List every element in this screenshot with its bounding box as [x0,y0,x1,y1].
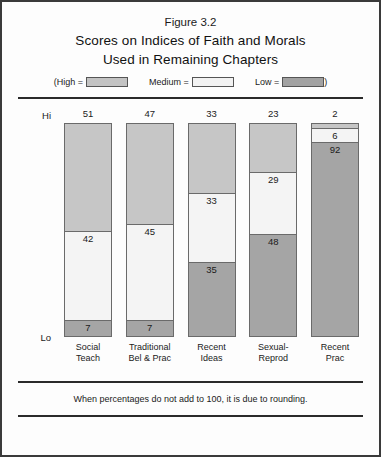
bar-segment-value-label: 7 [147,321,152,333]
low-swatch-icon [282,77,324,87]
category-label-line: Reprod [249,353,297,364]
title-block: Figure 3.2 Scores on Indices of Faith an… [2,2,379,68]
bar-segment-value-label: 45 [144,225,155,237]
bar-stack: 3335 [188,123,236,337]
bar-top-value-label: 47 [126,108,174,119]
category-label-line: Recent [188,342,236,353]
category-label-line: Traditional [126,342,174,353]
category-label-line: Social [64,342,112,353]
bar-stack: 457 [126,123,174,337]
legend-label-high: High = [57,77,83,87]
bar-segment-medium: 45 [127,224,173,320]
bar-segment-high [65,124,111,231]
figure-title-line-2: Used in Remaining Chapters [2,51,379,68]
bar-segment-high [127,124,173,224]
bar-column: 51427 [64,123,112,337]
medium-swatch-icon [192,77,234,87]
category-label: SocialTeach [64,342,112,363]
category-label-line: Prac [311,353,359,364]
category-label-group: SocialTeachTraditionalBel & PracRecentId… [64,342,359,363]
category-label-line: Sexual- [249,342,297,353]
plot-area: Hi Lo 51427474573333352329482692 SocialT… [18,99,363,381]
bar-segment-value-label: 7 [85,321,90,333]
legend-label-medium: Medium = [149,77,189,87]
bar-top-value-label: 2 [311,108,359,119]
bar-column: 2692 [311,123,359,337]
bar-top-value-label: 51 [64,108,112,119]
bar-segment-medium: 33 [189,193,235,263]
bar-segment-value-label: 35 [206,263,217,275]
bar-column: 333335 [188,123,236,337]
bar-segment-medium: 6 [312,128,358,142]
bar-segment-value-label: 33 [206,194,217,206]
category-label-line: Teach [64,353,112,364]
bar-column: 47457 [126,123,174,337]
legend-entry-medium: Medium = [149,77,234,87]
axis-label-low: Lo [29,332,51,343]
category-label: RecentPrac [311,342,359,363]
bar-segment-value-label: 92 [330,143,341,155]
figure-title-line-1: Scores on Indices of Faith and Morals [2,32,379,49]
bar-top-value-label: 33 [188,108,236,119]
legend-label-low: Low = [255,77,279,87]
bar-segment-value-label: 48 [268,235,279,247]
bar-segment-value-label: 6 [332,129,337,141]
category-label: Sexual-Reprod [249,342,297,363]
bar-segment-low: 7 [65,320,111,336]
legend-close-paren: ) [324,77,327,87]
figure-number: Figure 3.2 [2,15,379,30]
bar-segment-medium: 29 [250,172,296,234]
category-label: RecentIdeas [188,342,236,363]
legend-entry-low: Low = [255,77,324,87]
bar-segment-high [250,124,296,172]
bar-column: 232948 [249,123,297,337]
bar-segment-low: 35 [189,262,235,336]
chart-legend: ( High = Medium = Low = ) [2,77,379,87]
figure-container: Figure 3.2 Scores on Indices of Faith an… [0,0,381,457]
legend-entry-high: High = [57,77,128,87]
category-label-line: Recent [311,342,359,353]
bar-segment-value-label: 29 [268,173,279,185]
bar-segment-medium: 42 [65,231,111,320]
category-label-line: Bel & Prac [126,353,174,364]
axis-label-high: Hi [29,110,51,121]
bar-stack: 427 [64,123,112,337]
bar-segment-high [189,124,235,193]
bar-stack: 2948 [249,123,297,337]
bar-segment-low: 48 [250,234,296,336]
bar-top-value-label: 23 [249,108,297,119]
bar-segment-value-label: 42 [83,232,94,244]
bar-segment-low: 7 [127,320,173,336]
bar-stack: 692 [311,123,359,337]
category-label: TraditionalBel & Prac [126,342,174,363]
bar-segment-low: 92 [312,142,358,336]
bar-group: 51427474573333352329482692 [64,123,359,337]
figure-footnote: When percentages do not add to 100, it i… [2,383,379,415]
high-swatch-icon [86,77,128,87]
divider-bottom [18,415,363,417]
category-label-line: Ideas [188,353,236,364]
